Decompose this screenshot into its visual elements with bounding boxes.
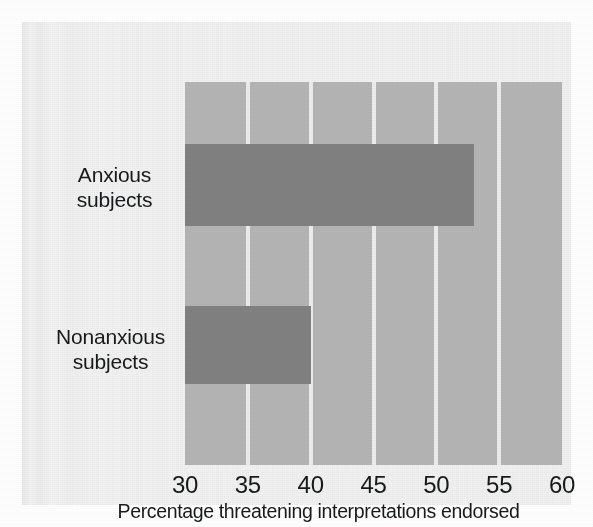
x-tick-40: 40: [288, 471, 334, 499]
x-axis-tick-labels: 30354045505560: [185, 471, 562, 499]
category-label-anxious-line1: Anxious: [52, 162, 177, 187]
bar-nonanxious-subjects: [185, 306, 311, 384]
category-label-nonanxious-line2: subjects: [44, 349, 177, 374]
gridline-45: [372, 82, 376, 465]
x-tick-55: 55: [476, 471, 522, 499]
bar-anxious-subjects: [185, 144, 474, 226]
category-label-nonanxious: Nonanxious subjects: [44, 324, 177, 374]
category-label-anxious-line2: subjects: [52, 187, 177, 212]
x-tick-60: 60: [539, 471, 585, 499]
x-tick-30: 30: [162, 471, 208, 499]
gridline-35: [246, 82, 250, 465]
category-label-anxious: Anxious subjects: [52, 162, 177, 212]
gridline-55: [497, 82, 501, 465]
figure-panel: Anxious subjects Nonanxious subjects 303…: [22, 22, 571, 505]
gridline-50: [434, 82, 438, 465]
x-tick-50: 50: [413, 471, 459, 499]
x-tick-45: 45: [351, 471, 397, 499]
gridline-40: [309, 82, 313, 465]
plot-area: [185, 82, 562, 465]
x-axis-title: Percentage threatening interpretations e…: [44, 500, 593, 523]
figure-root: Anxious subjects Nonanxious subjects 303…: [0, 0, 593, 527]
category-label-nonanxious-line1: Nonanxious: [44, 324, 177, 349]
x-tick-35: 35: [225, 471, 271, 499]
